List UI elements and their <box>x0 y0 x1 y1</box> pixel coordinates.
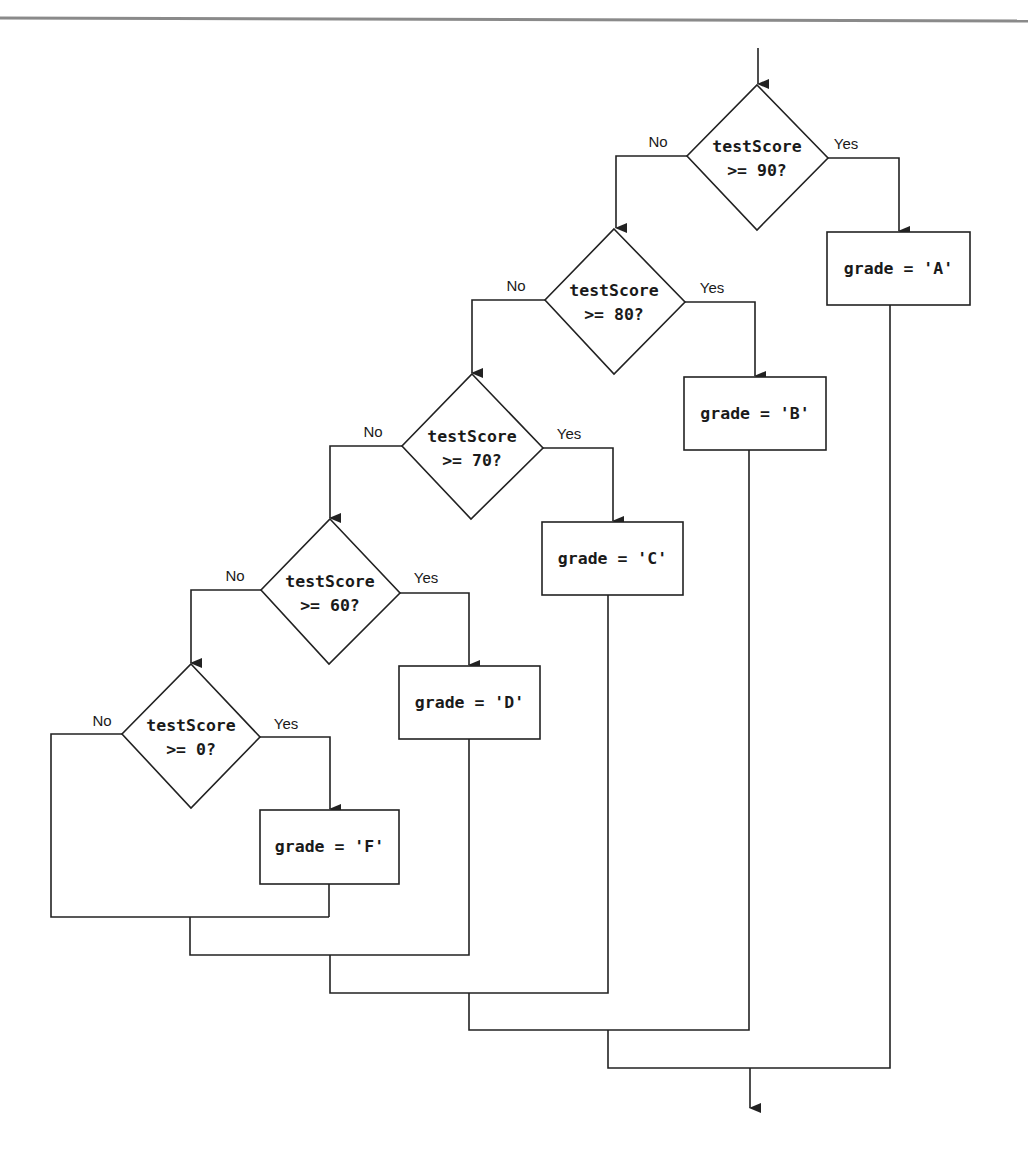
no-arrow-60 <box>191 590 261 663</box>
decision-diamond <box>261 519 400 664</box>
decision-text-line2: >= 0? <box>166 740 216 759</box>
yes-label: Yes <box>700 279 724 296</box>
decision-diamond <box>122 664 260 808</box>
process-text: grade = 'B' <box>700 404 809 423</box>
yes-arrow-70 <box>543 448 613 521</box>
decision-score-0: testScore >= 0? No Yes <box>92 664 298 808</box>
yes-label: Yes <box>557 425 581 442</box>
no-arrow-80 <box>472 300 545 373</box>
decision-diamond <box>687 85 828 230</box>
decision-score-90: testScore >= 90? No Yes <box>648 85 858 230</box>
no-label: No <box>363 423 382 440</box>
process-grade-b: grade = 'B' <box>684 377 826 450</box>
decision-text-line2: >= 70? <box>442 451 502 470</box>
process-grade-c: grade = 'C' <box>542 522 683 595</box>
decision-text-line1: testScore <box>427 427 516 446</box>
process-grade-a: grade = 'A' <box>827 232 970 305</box>
no-label: No <box>648 133 667 150</box>
no-label: No <box>506 277 525 294</box>
decision-text-line1: testScore <box>569 281 658 300</box>
decision-diamond <box>402 374 543 519</box>
decision-text-line1: testScore <box>712 137 801 156</box>
decision-diamond <box>545 229 685 374</box>
yes-arrow-60 <box>400 593 469 665</box>
top-rule-divider <box>0 18 1028 21</box>
process-grade-f: grade = 'F' <box>260 810 399 884</box>
yes-label: Yes <box>414 569 438 586</box>
process-text: grade = 'C' <box>558 549 667 568</box>
no-arrow-70 <box>330 446 402 518</box>
process-text: grade = 'A' <box>844 259 953 278</box>
decision-text-line2: >= 80? <box>584 305 644 324</box>
process-text: grade = 'D' <box>415 693 524 712</box>
decision-text-line1: testScore <box>285 572 374 591</box>
no-arrow-90 <box>616 156 687 228</box>
yes-arrow-90 <box>828 158 899 231</box>
yes-arrow-0 <box>260 737 330 809</box>
no-label: No <box>225 567 244 584</box>
flowchart-canvas: testScore >= 90? No Yes grade = 'A' test… <box>0 0 1028 1158</box>
process-grade-d: grade = 'D' <box>399 666 540 739</box>
process-text: grade = 'F' <box>275 837 384 856</box>
yes-label: Yes <box>274 715 298 732</box>
decision-text-line2: >= 60? <box>300 596 360 615</box>
no-label: No <box>92 712 111 729</box>
yes-arrow-80 <box>685 302 755 376</box>
decision-score-60: testScore >= 60? No Yes <box>225 519 438 664</box>
decision-text-line1: testScore <box>146 716 235 735</box>
decision-text-line2: >= 90? <box>727 161 787 180</box>
yes-label: Yes <box>834 135 858 152</box>
